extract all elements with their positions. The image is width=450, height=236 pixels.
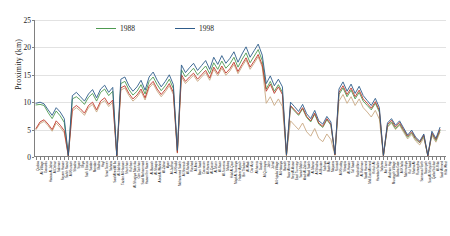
x-tick-mark: [68, 157, 69, 160]
x-tick-mark: [424, 157, 425, 160]
x-tick-mark: [185, 157, 186, 160]
x-tick-label: Hilla West: [445, 161, 448, 175]
x-tick-mark: [36, 157, 37, 160]
x-tick-mark: [404, 157, 405, 160]
x-tick-mark: [343, 157, 344, 160]
x-tick-mark: [105, 157, 106, 160]
x-tick-mark: [161, 157, 162, 160]
y-axis-title: Proximity (km): [14, 15, 23, 115]
series-line-1988: [36, 50, 440, 156]
x-tick-mark: [311, 157, 312, 160]
x-tick-mark: [149, 157, 150, 160]
x-tick-mark: [391, 157, 392, 160]
x-tick-mark: [48, 157, 49, 160]
x-tick-mark: [412, 157, 413, 160]
x-tick-mark: [335, 157, 336, 160]
legend-label-1988: 1988: [120, 24, 135, 33]
x-tick-mark: [44, 157, 45, 160]
x-tick-mark: [190, 157, 191, 160]
x-tick-mark: [242, 157, 243, 160]
x-tick-mark: [254, 157, 255, 160]
x-tick-mark: [444, 157, 445, 160]
x-tick-mark: [194, 157, 195, 160]
y-tick-label: 0: [27, 153, 31, 162]
x-tick-mark: [400, 157, 401, 160]
x-tick-mark: [52, 157, 53, 160]
x-tick-mark: [181, 157, 182, 160]
x-tick-mark: [129, 157, 130, 160]
x-tick-mark: [198, 157, 199, 160]
x-tick-mark: [359, 157, 360, 160]
x-tick-mark: [396, 157, 397, 160]
x-tick-mark: [290, 157, 291, 160]
x-tick-mark: [97, 157, 98, 160]
legend-label-1998: 1998: [199, 24, 214, 33]
x-tick-mark: [84, 157, 85, 160]
x-tick-mark: [262, 157, 263, 160]
x-tick-mark: [387, 157, 388, 160]
x-tick-mark: [72, 157, 73, 160]
x-tick-mark: [299, 157, 300, 160]
x-tick-mark: [258, 157, 259, 160]
x-tick-mark: [307, 157, 308, 160]
x-tick-mark: [93, 157, 94, 160]
x-tick-mark: [331, 157, 332, 160]
legend-item-1988[interactable]: 1988: [96, 24, 135, 33]
x-tick-mark: [177, 157, 178, 160]
y-tick-label: 20: [24, 43, 32, 52]
x-tick-mark: [137, 157, 138, 160]
x-tick-mark: [169, 157, 170, 160]
x-tick-mark: [218, 157, 219, 160]
series-line-series-3: [36, 55, 440, 156]
x-tick-mark: [145, 157, 146, 160]
x-tick-mark: [371, 157, 372, 160]
x-tick-mark: [351, 157, 352, 160]
x-tick-mark: [64, 157, 65, 160]
plot-area: 0510152025: [34, 20, 446, 157]
x-tick-mark: [226, 157, 227, 160]
series-lines: [34, 20, 446, 157]
x-axis-labels: QudsiaAli VillageGavurduHaoua Al-JabarAl…: [34, 161, 446, 236]
x-tick-mark: [76, 157, 77, 160]
x-tick-mark: [165, 157, 166, 160]
x-tick-mark: [234, 157, 235, 160]
x-tick-mark: [266, 157, 267, 160]
x-tick-mark: [206, 157, 207, 160]
x-tick-mark: [319, 157, 320, 160]
x-tick-mark: [303, 157, 304, 160]
x-tick-mark: [416, 157, 417, 160]
x-tick-mark: [230, 157, 231, 160]
x-tick-mark: [436, 157, 437, 160]
x-tick-mark: [157, 157, 158, 160]
x-tick-mark: [327, 157, 328, 160]
x-tick-mark: [80, 157, 81, 160]
x-tick-mark: [274, 157, 275, 160]
x-tick-mark: [315, 157, 316, 160]
x-tick-mark: [367, 157, 368, 160]
x-axis-ticks: [34, 157, 446, 160]
x-tick-mark: [295, 157, 296, 160]
y-tick-label: 25: [24, 16, 32, 25]
x-tick-mark: [202, 157, 203, 160]
x-tick-mark: [246, 157, 247, 160]
legend-swatch-1998: [175, 28, 195, 29]
y-tick-label: 10: [24, 98, 32, 107]
legend-item-1998[interactable]: 1998: [175, 24, 214, 33]
x-tick-mark: [153, 157, 154, 160]
x-tick-mark: [101, 157, 102, 160]
x-tick-mark: [89, 157, 90, 160]
legend-swatch-1988: [96, 28, 116, 29]
x-tick-mark: [133, 157, 134, 160]
x-tick-mark: [141, 157, 142, 160]
x-tick-mark: [375, 157, 376, 160]
x-tick-mark: [270, 157, 271, 160]
y-tick-label: 15: [24, 70, 32, 79]
x-tick-mark: [60, 157, 61, 160]
x-tick-mark: [173, 157, 174, 160]
x-tick-mark: [282, 157, 283, 160]
x-tick-mark: [355, 157, 356, 160]
x-tick-mark: [428, 157, 429, 160]
x-tick-mark: [363, 157, 364, 160]
chart-figure: Proximity (km) 19881998 0510152025 Qudsi…: [0, 0, 450, 236]
x-tick-mark: [109, 157, 110, 160]
